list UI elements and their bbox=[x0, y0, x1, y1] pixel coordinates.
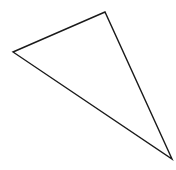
triangle-shape bbox=[13, 12, 172, 159]
triangle-canvas bbox=[0, 0, 176, 170]
